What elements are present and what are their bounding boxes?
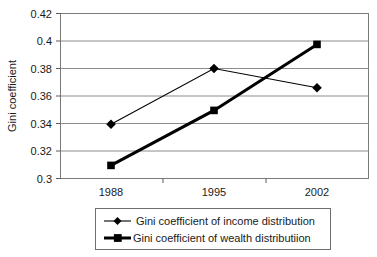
legend-wealth-square-icon — [114, 234, 122, 242]
x-tick-label-1988: 1988 — [99, 186, 123, 198]
y-axis-title: Gini coefficient — [6, 60, 18, 132]
series-wealth-marker-1995 — [210, 107, 218, 115]
y-tick-label-0.4: 0.4 — [37, 35, 52, 47]
legend-item-wealth[interactable]: Gini coefficient of wealth distributiion — [104, 232, 311, 244]
series-wealth-marker-1988 — [107, 162, 115, 170]
plot-area — [56, 14, 369, 184]
legend-item-income[interactable]: Gini coefficient of income distribution — [104, 215, 315, 227]
series-wealth-marker-2002 — [313, 41, 321, 49]
y-tick-label-0.32: 0.32 — [31, 145, 52, 157]
chart-canvas: 0.42 0.4 0.38 0.36 0.34 0.32 0.3 Gini co… — [0, 0, 377, 257]
legend-item-income-label: Gini coefficient of income distribution — [136, 215, 315, 227]
gini-coefficient-line-chart: 0.42 0.4 0.38 0.36 0.34 0.32 0.3 Gini co… — [0, 0, 377, 257]
y-tick-label-0.3: 0.3 — [37, 173, 52, 185]
x-tick-label-1995: 1995 — [202, 186, 226, 198]
legend-item-wealth-label: Gini coefficient of wealth distributiion — [133, 232, 311, 244]
x-tick-label-2002: 2002 — [305, 186, 329, 198]
y-tick-label-0.42: 0.42 — [31, 8, 52, 20]
y-tick-label-0.38: 0.38 — [31, 63, 52, 75]
y-tick-label-0.34: 0.34 — [31, 118, 52, 130]
y-tick-label-0.36: 0.36 — [31, 90, 52, 102]
chart-legend: Gini coefficient of income distribution … — [96, 209, 331, 250]
